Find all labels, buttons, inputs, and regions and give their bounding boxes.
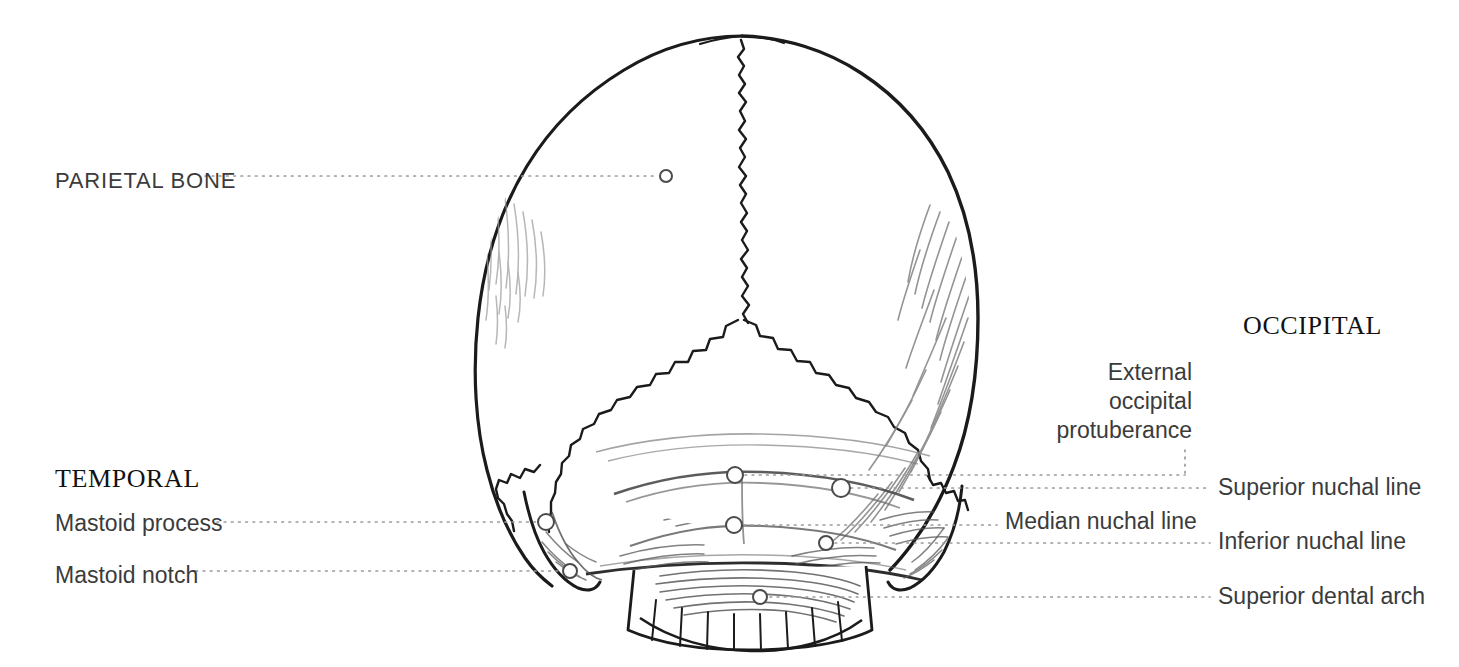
- label-parietal-bone: PARIETAL BONE: [55, 168, 236, 194]
- marker-median-nuchal-line: [726, 517, 742, 533]
- label-superior-nuchal-line: Superior nuchal line: [1218, 474, 1421, 501]
- label-mastoid-notch: Mastoid notch: [55, 562, 198, 589]
- label-inferior-nuchal-line: Inferior nuchal line: [1218, 528, 1406, 555]
- label-mastoid-process: Mastoid process: [55, 510, 222, 537]
- marker-mastoid-notch: [563, 564, 577, 578]
- label-line-3: protuberance: [1011, 416, 1192, 445]
- marker-superior-dental-arch: [753, 590, 767, 604]
- label-external-occipital-protuberance: External occipital protuberance: [1011, 358, 1192, 446]
- marker-inferior-nuchal-line: [819, 536, 833, 550]
- marker-superior-nuchal-line: [832, 479, 850, 497]
- label-superior-dental-arch: Superior dental arch: [1218, 583, 1425, 610]
- marker-mastoid-process: [538, 514, 554, 530]
- group-heading-temporal: TEMPORAL: [55, 464, 200, 494]
- marker-external-occipital-protuberance: [727, 467, 743, 483]
- label-line-1: External: [1011, 358, 1192, 387]
- group-heading-occipital: OCCIPITAL: [1243, 311, 1382, 341]
- label-median-nuchal-line: Median nuchal line: [1005, 508, 1197, 535]
- annotation-leaders: [0, 0, 1459, 667]
- marker-parietal-bone: [660, 170, 672, 182]
- anatomy-figure: TEMPORAL OCCIPITAL PARIETAL BONE Mastoid…: [0, 0, 1459, 667]
- label-line-2: occipital: [1011, 387, 1192, 416]
